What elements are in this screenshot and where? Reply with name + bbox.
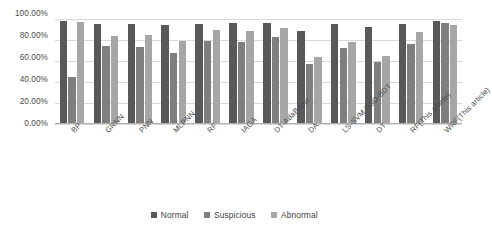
bar-suspicious[interactable]	[340, 48, 347, 124]
bar-abnormal[interactable]	[213, 30, 220, 125]
bar-abnormal[interactable]	[314, 57, 321, 124]
y-axis-tick-label: 60.00%	[20, 54, 48, 62]
legend-label: Normal	[161, 211, 189, 219]
x-axis-category: DT	[360, 126, 394, 202]
y-axis-tick-label: 0.00%	[24, 120, 48, 128]
y-axis-tick-label: 100.00%	[15, 10, 48, 18]
x-axis-category: BP	[55, 126, 89, 202]
x-axis-category: WRF(This article)	[428, 126, 462, 202]
legend-item-normal[interactable]: Normal	[151, 211, 188, 219]
y-axis-tick-label: 40.00%	[20, 76, 48, 84]
plot-wrapper: 100.00%80.00%60.00%40.00%20.00%0.00% BPG…	[0, 0, 469, 200]
bar-group	[259, 19, 293, 124]
x-axis-category: DT-AdaBoost	[259, 126, 293, 202]
x-axis-category: PNN	[123, 126, 157, 202]
plot-area	[55, 19, 462, 124]
x-axis-category: LS-SVM-PSO-BDT	[326, 126, 360, 202]
bar-suspicious[interactable]	[204, 41, 211, 124]
legend-swatch-icon	[204, 212, 210, 218]
legend-label: Suspicious	[214, 211, 256, 219]
bar-normal[interactable]	[94, 24, 101, 124]
legend-label: Abnormal	[281, 211, 318, 219]
bar-abnormal[interactable]	[348, 42, 355, 124]
bar-normal[interactable]	[60, 21, 67, 124]
y-axis-tick-labels: 100.00%80.00%60.00%40.00%20.00%0.00%	[0, 14, 52, 124]
bar-suspicious[interactable]	[272, 37, 279, 124]
bar-suspicious[interactable]	[306, 64, 313, 124]
bar-group	[326, 19, 360, 124]
bar-abnormal[interactable]	[246, 31, 253, 124]
bar-group	[123, 19, 157, 124]
chart-legend: NormalSuspiciousAbnormal	[0, 211, 469, 219]
bar-suspicious[interactable]	[68, 77, 75, 124]
legend-swatch-icon	[151, 212, 157, 218]
x-axis-category: DA	[292, 126, 326, 202]
bar-normal[interactable]	[128, 24, 135, 124]
bar-normal[interactable]	[399, 24, 406, 124]
legend-item-abnormal[interactable]: Abnormal	[271, 211, 317, 219]
bar-abnormal[interactable]	[179, 41, 186, 124]
y-axis-tick-label: 20.00%	[20, 98, 48, 106]
bar-group	[55, 19, 89, 124]
x-axis-category: RF(This article)	[394, 126, 428, 202]
bar-normal[interactable]	[331, 24, 338, 124]
x-axis-category: GRNN	[89, 126, 123, 202]
bar-normal[interactable]	[229, 23, 236, 124]
x-axis-category: RF	[191, 126, 225, 202]
bar-abnormal[interactable]	[77, 22, 84, 124]
bar-group	[394, 19, 428, 124]
legend-item-suspicious[interactable]: Suspicious	[204, 211, 255, 219]
bar-suspicious[interactable]	[407, 44, 414, 124]
bar-abnormal[interactable]	[280, 28, 287, 124]
bar-group	[89, 19, 123, 124]
bar-abnormal[interactable]	[111, 36, 118, 124]
bar-suspicious[interactable]	[136, 47, 143, 124]
bar-abnormal[interactable]	[450, 25, 457, 124]
x-axis-category: MLPNN	[157, 126, 191, 202]
bar-group	[225, 19, 259, 124]
bar-suspicious[interactable]	[102, 46, 109, 124]
bar-normal[interactable]	[195, 24, 202, 124]
bar-suspicious[interactable]	[238, 42, 245, 124]
bar-abnormal[interactable]	[416, 32, 423, 124]
x-axis-category: IAGA	[225, 126, 259, 202]
y-axis-tick-label: 80.00%	[20, 32, 48, 40]
bar-normal[interactable]	[161, 25, 168, 124]
legend-swatch-icon	[271, 212, 277, 218]
bars-layer	[55, 19, 462, 124]
bar-suspicious[interactable]	[170, 53, 177, 124]
bar-normal[interactable]	[263, 23, 270, 124]
bar-group	[157, 19, 191, 124]
x-axis-category-labels: BPGRNNPNNMLPNNRFIAGADT-AdaBoostDALS-SVM-…	[55, 126, 462, 202]
bar-abnormal[interactable]	[145, 35, 152, 124]
bar-suspicious[interactable]	[441, 23, 448, 124]
bar-group	[191, 19, 225, 124]
